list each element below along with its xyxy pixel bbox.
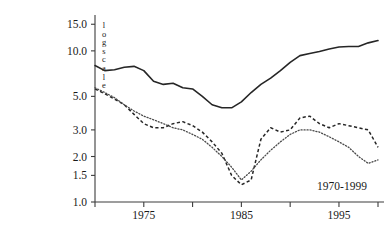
y-tick-label: 3.0 xyxy=(73,124,88,136)
chart-container: 1.01.52.03.05.010.015.0 197519851995 log… xyxy=(0,0,389,226)
y-axis-label-log-scale: logscale xyxy=(102,20,107,90)
y-tick-label: 15.0 xyxy=(67,18,87,30)
y-axis-tick-marks xyxy=(91,24,95,202)
y-tick-label: 1.5 xyxy=(73,169,88,181)
y-axis-label-letter: e xyxy=(102,80,106,90)
x-axis-tick-labels: 197519851995 xyxy=(132,209,350,221)
y-tick-label: 2.0 xyxy=(73,151,88,163)
y-axis-tick-labels: 1.01.52.03.05.010.015.0 xyxy=(67,18,87,208)
y-tick-label: 10.0 xyxy=(67,45,87,57)
x-tick-label: 1985 xyxy=(230,209,253,221)
x-tick-label: 1995 xyxy=(327,209,350,221)
line-chart: 1.01.52.03.05.010.015.0 197519851995 log… xyxy=(0,0,389,226)
y-tick-label: 1.0 xyxy=(73,196,88,208)
series-dotted-line xyxy=(95,88,378,180)
x-tick-label: 1975 xyxy=(132,209,155,221)
y-tick-label: 5.0 xyxy=(73,90,88,102)
x-axis-tick-marks xyxy=(95,202,378,207)
series-dashed-line xyxy=(95,89,378,185)
range-annotation: 1970-1999 xyxy=(317,180,367,192)
series-solid-line xyxy=(95,41,378,108)
